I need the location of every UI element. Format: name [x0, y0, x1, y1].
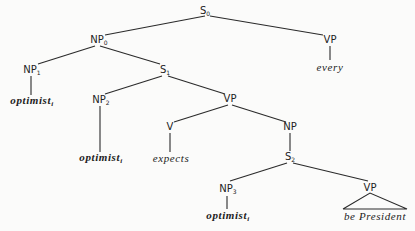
node-np2: NP2	[92, 95, 109, 106]
word-be-president: be President	[344, 211, 406, 222]
node-vp-top: VP	[324, 35, 337, 45]
node-np-mid: NP	[283, 122, 297, 132]
word-optimist-1: optimisti	[10, 95, 53, 108]
node-s0: S0	[200, 6, 210, 17]
node-vp-bottom: VP	[364, 183, 377, 193]
word-optimist-2: optimisti	[79, 152, 122, 165]
word-every: every	[317, 62, 344, 73]
word-optimist-3: optimisti	[206, 210, 249, 223]
node-s2: S2	[285, 152, 295, 163]
tree-edges	[0, 0, 415, 231]
node-np1: NP1	[23, 65, 40, 76]
node-np0: NP0	[90, 35, 107, 46]
node-vp-mid: VP	[224, 94, 237, 104]
node-v: V	[167, 122, 174, 132]
node-np3: NP3	[219, 184, 236, 195]
node-s1: S1	[160, 65, 170, 76]
word-expects: expects	[153, 153, 190, 164]
